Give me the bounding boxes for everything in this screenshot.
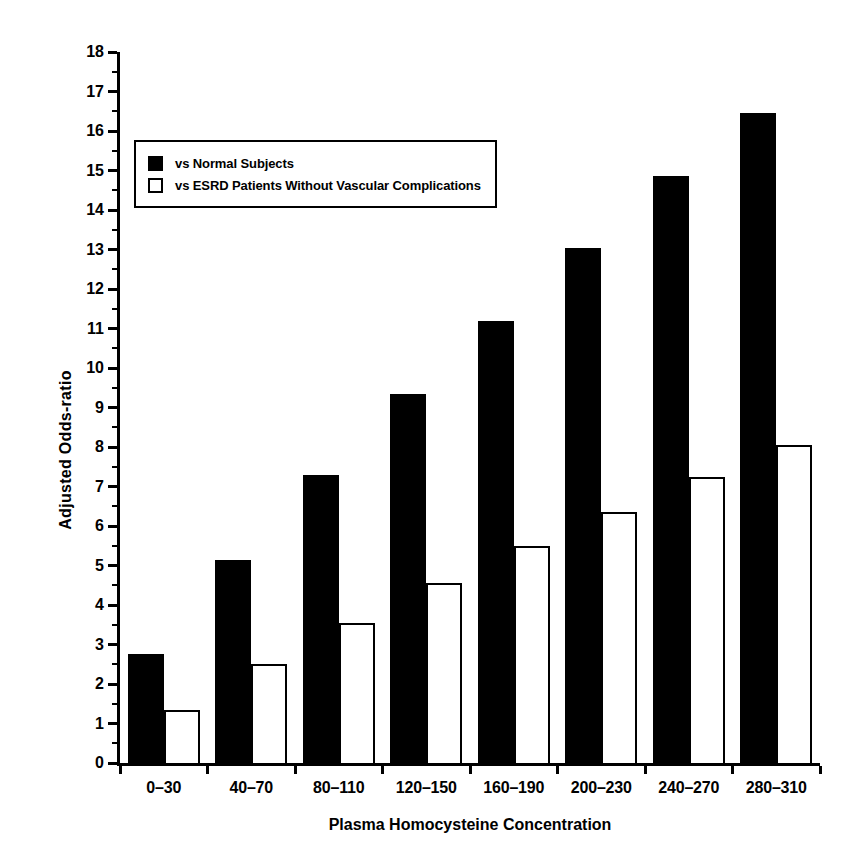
y-axis-minor-tick (112, 466, 117, 468)
bar-normal-subjects (653, 176, 689, 763)
y-axis-tick-label: 10 (74, 359, 104, 377)
bar-normal-subjects (215, 560, 251, 763)
x-axis-title: Plasma Homocysteine Concentration (120, 816, 820, 834)
legend-entry-label: vs ESRD Patients Without Vascular Compli… (175, 178, 481, 193)
x-axis-tick (644, 766, 647, 774)
bar-esrd-patients (776, 445, 812, 763)
x-axis-category-label: 0–30 (146, 779, 181, 797)
x-axis-tick (731, 766, 734, 774)
y-axis-tick-label: 15 (74, 162, 104, 180)
chart-legend: vs Normal Subjects vs ESRD Patients With… (134, 140, 497, 208)
y-axis-minor-tick (112, 347, 117, 349)
y-axis-tick-label: 13 (74, 241, 104, 259)
y-axis-line (117, 52, 120, 765)
y-axis-minor-tick (112, 545, 117, 547)
y-axis-tick-label: 6 (74, 517, 104, 535)
y-axis-minor-tick (112, 426, 117, 428)
legend-entry: vs ESRD Patients Without Vascular Compli… (148, 174, 481, 196)
x-axis-category-label: 240–270 (658, 779, 719, 797)
y-axis-tick-label: 18 (74, 43, 104, 61)
y-axis-minor-tick (112, 308, 117, 310)
y-axis-tick-label: 4 (74, 596, 104, 614)
y-axis-major-tick (108, 762, 117, 765)
y-axis-minor-tick (112, 229, 117, 231)
x-axis-tick (294, 766, 297, 774)
y-axis-tick-label: 12 (74, 280, 104, 298)
y-axis-major-tick (108, 209, 117, 212)
y-axis-major-tick (108, 327, 117, 330)
y-axis-tick-label: 1 (74, 715, 104, 733)
y-axis-minor-tick (112, 110, 117, 112)
y-axis-tick-label: 7 (74, 478, 104, 496)
x-axis-tick (119, 766, 122, 774)
x-axis-tick (556, 766, 559, 774)
open-square-icon (148, 178, 163, 193)
bar-esrd-patients (601, 512, 637, 763)
x-axis-category-label: 120–150 (396, 779, 457, 797)
y-axis-major-tick (108, 604, 117, 607)
y-axis-minor-tick (112, 189, 117, 191)
y-axis-minor-tick (112, 624, 117, 626)
y-axis-tick-label: 2 (74, 675, 104, 693)
y-axis-major-tick (108, 169, 117, 172)
y-axis-minor-tick (112, 742, 117, 744)
y-axis-tick-label: 16 (74, 122, 104, 140)
y-axis-major-tick (108, 367, 117, 370)
y-axis-minor-tick (112, 703, 117, 705)
y-axis-minor-tick (112, 268, 117, 270)
y-axis-minor-tick (112, 505, 117, 507)
y-axis-tick-label: 8 (74, 438, 104, 456)
bar-normal-subjects (128, 654, 164, 763)
legend-entry-label: vs Normal Subjects (175, 156, 294, 171)
y-axis-minor-tick (112, 584, 117, 586)
y-axis-minor-tick (112, 71, 117, 73)
x-axis-category-label: 200–230 (571, 779, 632, 797)
y-axis-tick-label: 9 (74, 399, 104, 417)
y-axis-major-tick (108, 90, 117, 93)
y-axis-minor-tick (112, 150, 117, 152)
bar-esrd-patients (339, 623, 375, 763)
bar-normal-subjects (565, 248, 601, 763)
y-axis-major-tick (108, 683, 117, 686)
bar-esrd-patients (426, 583, 462, 763)
y-axis-minor-tick (112, 663, 117, 665)
y-axis-tick-label: 3 (74, 636, 104, 654)
y-axis-minor-tick (112, 387, 117, 389)
y-axis-major-tick (108, 51, 117, 54)
x-axis-tick (819, 766, 822, 774)
y-axis-major-tick (108, 643, 117, 646)
y-axis-major-tick (108, 288, 117, 291)
x-axis-tick (469, 766, 472, 774)
y-axis-tick-label: 5 (74, 557, 104, 575)
x-axis-tick (381, 766, 384, 774)
x-axis-category-label: 160–190 (483, 779, 544, 797)
y-axis-major-tick (108, 406, 117, 409)
x-axis-category-label: 40–70 (230, 779, 274, 797)
y-axis-major-tick (108, 525, 117, 528)
bar-normal-subjects (303, 475, 339, 763)
bar-normal-subjects (390, 394, 426, 763)
x-axis-category-label: 80–110 (313, 779, 364, 797)
y-axis-major-tick (108, 722, 117, 725)
y-axis-major-tick (108, 248, 117, 251)
legend-entry: vs Normal Subjects (148, 152, 481, 174)
y-axis-major-tick (108, 564, 117, 567)
y-axis-tick-label: 17 (74, 83, 104, 101)
y-axis-tick-label: 0 (74, 754, 104, 772)
y-axis-tick-label: 14 (74, 201, 104, 219)
filled-square-icon (148, 156, 163, 171)
bar-normal-subjects (740, 113, 776, 763)
bar-esrd-patients (689, 477, 725, 763)
x-axis-tick (206, 766, 209, 774)
odds-ratio-bar-chart: Adjusted Odds-ratio 01234567891011121314… (0, 0, 843, 865)
bar-normal-subjects (478, 321, 514, 763)
y-axis-major-tick (108, 485, 117, 488)
bar-esrd-patients (251, 664, 287, 763)
x-axis-category-label: 280–310 (746, 779, 807, 797)
bar-esrd-patients (514, 546, 550, 763)
y-axis-major-tick (108, 446, 117, 449)
bar-esrd-patients (164, 710, 200, 763)
y-axis-major-tick (108, 130, 117, 133)
y-axis-tick-label: 11 (74, 320, 104, 338)
